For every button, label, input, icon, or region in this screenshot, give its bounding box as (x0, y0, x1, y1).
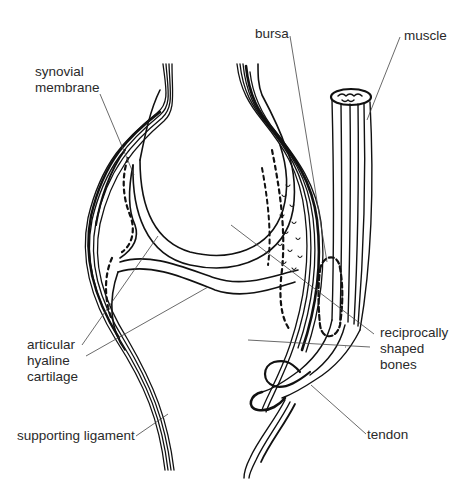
leader-cartilage-lower (86, 287, 208, 356)
joint-diagram: synovial membrane bursa muscle articular… (0, 0, 470, 490)
label-muscle: muscle (404, 28, 447, 44)
leader-ligament (136, 414, 168, 436)
leader-lines (82, 36, 400, 436)
leader-muscle (367, 37, 400, 120)
label-synovial-membrane: synovial membrane (35, 64, 100, 96)
label-bursa: bursa (255, 26, 289, 42)
label-reciprocally-shaped-bones: reciprocally shaped bones (380, 325, 448, 373)
synovial-fluid-texture (278, 185, 302, 270)
lower-bone-surface (112, 259, 298, 350)
label-articular-hyaline-cartilage: articular hyaline cartilage (27, 337, 78, 385)
leader-tendon (311, 385, 366, 434)
upper-bone-head (120, 64, 294, 268)
label-tendon: tendon (367, 427, 408, 443)
left-ligament-bundle (85, 64, 174, 470)
leader-bursa (290, 36, 327, 262)
tendon-bundle (244, 320, 360, 478)
muscle-body (331, 89, 372, 330)
label-supporting-ligament: supporting ligament (17, 428, 135, 444)
